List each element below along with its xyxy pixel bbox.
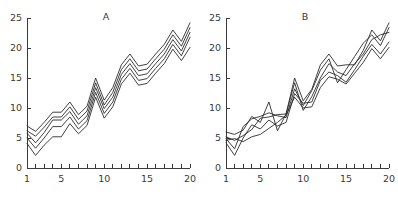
x-tick-label-a-1: 1	[24, 173, 30, 184]
y-tick-label-b-15: 15	[209, 72, 221, 83]
panel-b-plot: B 051015202515101520	[199, 0, 398, 209]
y-tick-label-b-10: 10	[209, 102, 221, 113]
x-tick-label-a-15: 15	[141, 173, 153, 184]
series-line-a-2	[27, 28, 190, 137]
series-line-a-4	[27, 37, 190, 148]
panel-b-series	[226, 23, 389, 156]
x-tick-label-b-10: 10	[297, 173, 309, 184]
x-tick-label-b-20: 20	[383, 173, 395, 184]
y-tick-label-a-5: 5	[16, 132, 22, 143]
chart-panel-b: B 051015202515101520	[199, 0, 398, 209]
panel-a-plot: A 051015202515101520	[0, 0, 199, 209]
x-tick-label-a-20: 20	[184, 173, 196, 184]
chart-panel-a: A 051015202515101520	[0, 0, 199, 209]
y-tick-label-b-25: 25	[209, 12, 221, 23]
y-tick-label-a-0: 0	[16, 162, 22, 173]
x-tick-label-b-5: 5	[257, 173, 263, 184]
y-tick-label-b-5: 5	[215, 132, 221, 143]
y-tick-label-a-25: 25	[10, 12, 22, 23]
figure-canvas: A 051015202515101520 B 05101520251510152…	[0, 0, 398, 209]
y-tick-label-b-0: 0	[215, 162, 221, 173]
panel-a-series	[27, 23, 190, 156]
x-tick-label-b-15: 15	[340, 173, 352, 184]
x-tick-label-a-10: 10	[98, 173, 110, 184]
y-tick-label-a-10: 10	[10, 102, 22, 113]
y-tick-label-b-20: 20	[209, 42, 221, 53]
panel-b-title: B	[302, 11, 309, 22]
series-line-b-1	[226, 23, 389, 135]
series-line-a-1	[27, 23, 190, 132]
y-tick-label-a-15: 15	[10, 72, 22, 83]
x-tick-label-a-5: 5	[58, 173, 64, 184]
x-tick-label-b-1: 1	[223, 173, 229, 184]
series-line-a-5	[27, 47, 190, 155]
series-line-b-3	[226, 32, 389, 140]
panel-a-title: A	[103, 11, 110, 22]
series-line-a-3	[27, 32, 190, 142]
y-tick-label-a-20: 20	[10, 42, 22, 53]
